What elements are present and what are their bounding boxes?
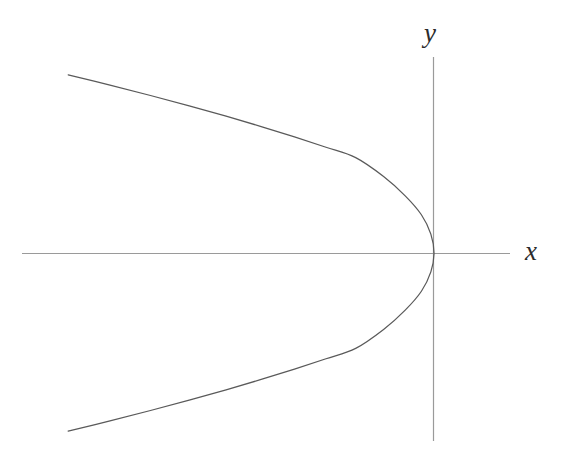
parabola-plot-svg [0,0,571,456]
x-axis-label: x [525,238,537,265]
y-axis-label: y [424,20,436,47]
parabola-figure: y x [0,0,571,456]
